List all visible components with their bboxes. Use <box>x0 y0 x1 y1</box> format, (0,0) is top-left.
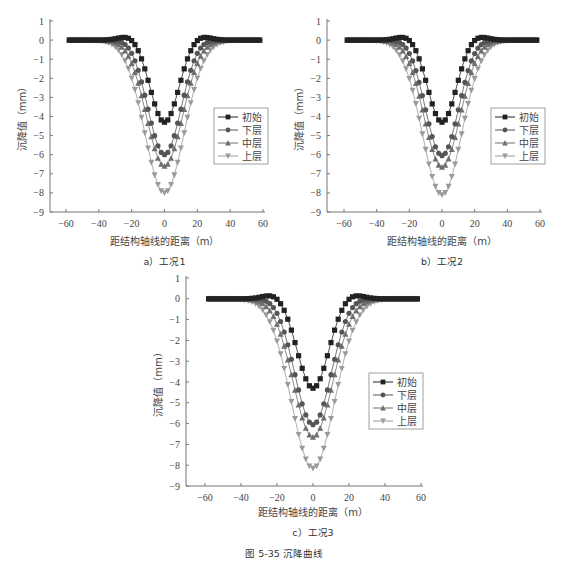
legend: 初始下层中层上层 <box>369 373 423 429</box>
x-tick-label: 20 <box>470 218 480 229</box>
triangle-down-marker-icon <box>184 115 190 121</box>
legend-item-label: 上层 <box>519 151 539 162</box>
y-axis-label: 沉降值（mm） <box>293 82 305 151</box>
x-tick-label: 0 <box>162 218 167 229</box>
triangle-down-marker-icon <box>181 130 187 136</box>
circle-marker-icon <box>296 387 301 392</box>
circle-marker-icon <box>339 329 344 334</box>
triangle-down-marker-icon <box>346 338 352 344</box>
square-marker-icon <box>289 328 294 333</box>
x-tick-label: 40 <box>225 218 235 229</box>
settlement-figure: 10−1−2−3−4−5−6−7−8−9−60−40−200204060沉降值（… <box>0 0 569 569</box>
circle-marker-icon <box>152 133 157 138</box>
square-marker-icon <box>182 66 187 71</box>
square-marker-icon <box>136 48 141 53</box>
square-marker-icon <box>257 38 262 43</box>
square-marker-icon <box>175 90 180 95</box>
circle-marker-icon <box>282 329 287 334</box>
circle-marker-icon <box>413 68 418 73</box>
y-tick-label: −5 <box>33 130 44 141</box>
triangle-down-marker-icon <box>274 338 280 344</box>
triangle-down-marker-icon <box>281 366 287 372</box>
x-tick-label: 40 <box>380 492 390 503</box>
triangle-down-marker-icon <box>423 147 429 153</box>
square-marker-icon <box>188 48 193 53</box>
triangle-down-marker-icon <box>446 184 452 190</box>
circle-marker-icon <box>191 58 196 63</box>
square-marker-icon <box>462 56 467 61</box>
y-tick-label: −9 <box>33 207 44 218</box>
square-marker-icon <box>303 376 308 381</box>
triangle-up-marker-icon <box>306 432 312 438</box>
triangle-down-marker-icon <box>400 58 406 64</box>
circle-marker-icon <box>136 68 141 73</box>
circle-marker-icon <box>346 311 351 316</box>
triangle-down-marker-icon <box>122 58 128 64</box>
y-tick-label: −6 <box>33 149 44 160</box>
circle-marker-icon <box>449 134 454 139</box>
x-tick-label: −60 <box>197 492 213 503</box>
y-tick-label: 1 <box>39 16 44 27</box>
triangle-down-marker-icon <box>278 351 284 357</box>
circle-marker-icon <box>271 305 276 310</box>
triangle-up-marker-icon <box>317 425 323 431</box>
triangle-down-marker-icon <box>413 101 419 107</box>
circle-marker-icon <box>172 133 177 138</box>
circle-marker-icon <box>289 357 294 362</box>
square-marker-icon <box>328 340 333 345</box>
triangle-down-marker-icon <box>303 457 309 463</box>
square-marker-icon <box>413 48 418 53</box>
square-marker-icon <box>459 66 464 71</box>
chart-c: 10−1−2−3−4−5−6−7−8−9−60−40−200204060沉降值（… <box>152 273 426 539</box>
circle-marker-icon <box>226 128 231 133</box>
triangle-down-marker-icon <box>139 115 145 121</box>
y-tick-label: 0 <box>316 35 321 46</box>
figure-caption: 图 5-35 沉降曲线 <box>245 548 323 559</box>
circle-marker-icon <box>343 319 348 324</box>
y-tick-label: −2 <box>33 73 44 84</box>
y-tick-label: −1 <box>310 54 321 65</box>
circle-marker-icon <box>292 372 297 377</box>
triangle-down-marker-icon <box>459 131 465 137</box>
circle-marker-icon <box>145 107 150 112</box>
x-tick-label: 60 <box>535 218 545 229</box>
legend-item-label: 中层 <box>519 137 539 149</box>
square-marker-icon <box>343 301 348 306</box>
circle-marker-icon <box>168 143 173 148</box>
triangle-down-marker-icon <box>328 416 334 422</box>
square-marker-icon <box>278 301 283 306</box>
triangle-down-marker-icon <box>288 399 294 405</box>
x-tick-label: 60 <box>416 492 426 503</box>
square-marker-icon <box>296 353 301 358</box>
circle-marker-icon <box>472 51 477 56</box>
square-marker-icon <box>155 111 160 116</box>
triangle-down-marker-icon <box>419 131 425 137</box>
square-marker-icon <box>381 380 386 385</box>
triangle-down-marker-icon <box>194 76 200 82</box>
triangle-down-marker-icon <box>198 66 204 72</box>
y-tick-label: −5 <box>310 130 321 141</box>
triangle-down-marker-icon <box>263 312 269 318</box>
triangle-down-marker-icon <box>472 76 478 82</box>
x-tick-label: 20 <box>192 218 202 229</box>
triangle-down-marker-icon <box>168 182 174 188</box>
triangle-down-marker-icon <box>296 432 302 438</box>
triangle-down-marker-icon <box>135 100 141 106</box>
chart-b: 10−1−2−3−4−5−6−7−8−9−60−40−200204060沉降值（… <box>293 16 545 268</box>
circle-marker-icon <box>149 120 154 125</box>
y-tick-label: −8 <box>33 187 44 198</box>
circle-marker-icon <box>178 107 183 112</box>
square-marker-icon <box>165 117 170 122</box>
circle-marker-icon <box>420 93 425 98</box>
circle-marker-icon <box>139 79 144 84</box>
circle-marker-icon <box>278 319 283 324</box>
y-tick-label: −8 <box>310 187 321 198</box>
circle-marker-icon <box>314 420 319 425</box>
circle-marker-icon <box>466 68 471 73</box>
triangle-down-marker-icon <box>270 328 276 334</box>
triangle-up-marker-icon <box>432 156 438 162</box>
legend: 初始下层中层上层 <box>214 108 268 164</box>
x-tick-label: 60 <box>258 218 268 229</box>
circle-marker-icon <box>155 143 160 148</box>
legend-item-label: 初始 <box>397 376 417 388</box>
